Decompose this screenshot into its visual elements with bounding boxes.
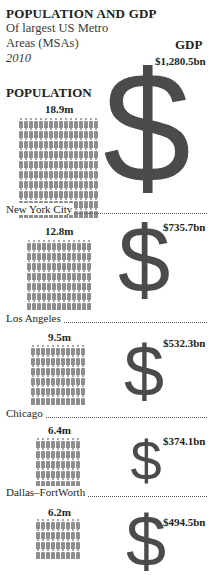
chart-title: POPULATION AND GDP xyxy=(6,6,157,22)
person-icon xyxy=(80,365,85,375)
person-icon xyxy=(75,529,80,539)
person-icon xyxy=(86,300,91,310)
gdp-value-chicago: $532.3bn xyxy=(163,337,206,349)
person-icon xyxy=(93,158,98,168)
dollar-icon-dallas: $ xyxy=(130,433,162,489)
person-icon xyxy=(75,438,80,448)
person-icon xyxy=(86,250,91,260)
person-icon xyxy=(75,549,80,559)
city-label-la: Los Angeles xyxy=(6,312,63,324)
population-value-dallas: 6.4m xyxy=(48,424,71,436)
person-icon xyxy=(86,280,91,290)
gdp-value-row5: $494.5bn xyxy=(163,516,206,528)
dollar-icon-nyc: $ xyxy=(103,48,187,206)
person-icon xyxy=(75,539,80,549)
person-icon xyxy=(93,128,98,138)
chart-subtitle: Of largest US Metro Areas (MSAs) xyxy=(6,21,116,51)
gdp-value-nyc: $1,280.5bn xyxy=(155,55,206,67)
person-icon xyxy=(75,448,80,458)
dollar-icon-chicago: $ xyxy=(124,335,164,407)
person-icon xyxy=(80,385,85,395)
population-value-la: 12.8m xyxy=(45,225,73,237)
population-value-row5: 6.2m xyxy=(48,506,71,518)
chart-year: 2010 xyxy=(6,51,31,66)
people-grid-dallas xyxy=(35,438,80,488)
dollar-icon-la: $ xyxy=(118,213,168,307)
people-grid-chicago xyxy=(30,345,85,405)
person-icon xyxy=(93,188,98,198)
population-column-header: POPULATION xyxy=(6,85,92,101)
population-value-nyc: 18.9m xyxy=(45,103,73,115)
person-icon xyxy=(86,240,91,250)
city-label-dallas: Dallas–FortWorth xyxy=(6,486,87,498)
person-icon xyxy=(75,458,80,468)
gdp-value-la: $735.7bn xyxy=(163,221,206,233)
person-icon xyxy=(93,178,98,188)
person-icon xyxy=(93,168,98,178)
person-icon xyxy=(93,138,98,148)
dollar-icon-row5: $ xyxy=(126,505,166,575)
people-grid-row5 xyxy=(35,519,80,559)
person-icon xyxy=(93,148,98,158)
person-icon xyxy=(86,260,91,270)
person-icon xyxy=(93,198,98,208)
population-value-chicago: 9.5m xyxy=(48,331,71,343)
person-icon xyxy=(75,468,80,478)
people-grid-la xyxy=(26,240,91,310)
person-icon xyxy=(80,355,85,365)
gdp-value-dallas: $374.1bn xyxy=(163,435,206,447)
person-icon xyxy=(86,270,91,280)
person-icon xyxy=(80,345,85,355)
city-label-nyc: New York City xyxy=(6,203,74,215)
person-icon xyxy=(93,118,98,128)
city-label-chicago: Chicago xyxy=(6,407,45,419)
person-icon xyxy=(80,395,85,405)
person-icon xyxy=(80,375,85,385)
person-icon xyxy=(75,519,80,529)
person-icon xyxy=(86,290,91,300)
